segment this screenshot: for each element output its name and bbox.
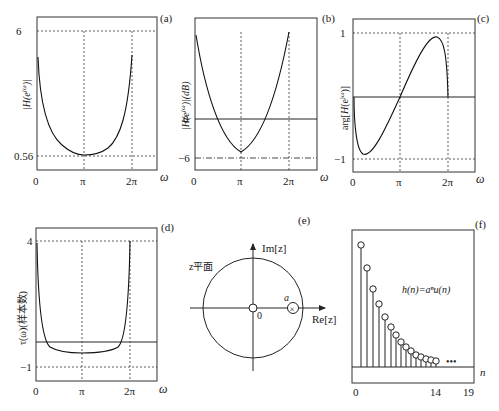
panel-label-c: (c) (477, 12, 490, 25)
phase-curve (354, 37, 448, 154)
xtick-pi: π (79, 385, 85, 397)
xtick-2pi: 2π (283, 175, 295, 187)
xtick-0: 0 (350, 176, 356, 188)
xtick-0: 0 (33, 175, 39, 187)
y-axis-label-d: τ(ω)(样本数) (16, 291, 29, 345)
xtick-0: 0 (33, 385, 39, 397)
db-curve (196, 32, 289, 152)
xtick-14: 14 (430, 386, 442, 398)
x-axis-label-omega: ω (160, 170, 168, 184)
svg-text:τ(ω)(样本数): τ(ω)(样本数) (16, 291, 29, 345)
panel-b-frame (195, 18, 317, 170)
ytick-minus1: −1 (334, 153, 346, 165)
xtick-0: 0 (353, 386, 359, 398)
panel-d-frame (36, 228, 157, 381)
panel-label-d: (d) (161, 221, 174, 234)
panel-f-impulse-response: ••• h(n)=aⁿu(n) n 0 14 19 (f) (352, 218, 486, 398)
group-delay-curve (37, 241, 130, 353)
figure-canvas: 6 0.56 0 π 2π ω (a) |H(ejω)| 0 −6 0 π 2π… (0, 0, 499, 411)
imag-axis-label: Im[z] (262, 242, 286, 254)
panel-label-b: (b) (322, 12, 335, 25)
ytick-0.56: 0.56 (14, 150, 34, 162)
x-axis-label-omega: ω (320, 170, 328, 184)
panel-d-group-delay: 4 −1 0 π 2π ω (d) τ(ω)(样本数) (16, 221, 174, 397)
panel-label-f: (f) (475, 218, 486, 231)
svg-text:|H(ejω)|(dB): |H(ejω)|(dB) (179, 81, 192, 130)
panel-a-magnitude: 6 0.56 0 π 2π ω (a) |H(ejω)| (14, 12, 173, 187)
y-axis-label-b: |H(ejω)|(dB) (179, 81, 192, 130)
x-axis-label-n: n (480, 366, 486, 378)
magnitude-curve (38, 55, 132, 155)
svg-text:arg[H(ejω)]: arg[H(ejω)] (338, 86, 351, 130)
xtick-2pi: 2π (126, 175, 138, 187)
z-plane-label: z平面 (189, 261, 213, 272)
xtick-pi: π (237, 175, 243, 187)
panel-b-magnitude-db: 0 −6 0 π 2π ω (b) |H(ejω)|(dB) (178, 12, 335, 187)
panel-e-pole-zero-plot: × Im[z] Re[z] z平面 0 a (e) (189, 214, 336, 371)
y-axis-label-a: |H(ejω)| (20, 79, 33, 110)
svg-text:|H(ejω)|: |H(ejω)| (20, 79, 33, 110)
xtick-2pi: 2π (124, 385, 136, 397)
pole-cross-icon: × (290, 304, 295, 314)
x-axis-label-omega: ω (476, 172, 484, 186)
stem-series (358, 242, 439, 367)
pole-label-a: a (284, 292, 289, 303)
origin-label: 0 (257, 310, 262, 321)
xtick-pi: π (396, 176, 402, 188)
panel-label-a: (a) (160, 12, 173, 25)
zero-marker (249, 304, 257, 312)
ytick-minus6: −6 (178, 152, 190, 164)
ytick-6: 6 (16, 25, 22, 37)
xtick-2pi: 2π (442, 176, 454, 188)
impulse-formula: h(n)=aⁿu(n) (402, 284, 451, 296)
panel-c-phase: 1 −1 0 π 2π ω (c) arg[H(ejω)] (334, 12, 490, 188)
xtick-19: 19 (463, 386, 475, 398)
x-axis-label-omega: ω (159, 382, 167, 396)
xtick-pi: π (80, 175, 86, 187)
panel-c-frame (353, 19, 475, 172)
y-axis-label-c: arg[H(ejω)] (338, 86, 351, 130)
continuation-dots: ••• (446, 356, 457, 367)
panel-a-frame (37, 17, 157, 170)
ytick-minus1: −1 (20, 361, 32, 373)
ytick-4: 4 (27, 235, 33, 247)
real-axis-label: Re[z] (312, 313, 336, 325)
panel-label-e: (e) (298, 214, 311, 227)
ytick-1: 1 (340, 27, 346, 39)
xtick-0: 0 (191, 175, 197, 187)
